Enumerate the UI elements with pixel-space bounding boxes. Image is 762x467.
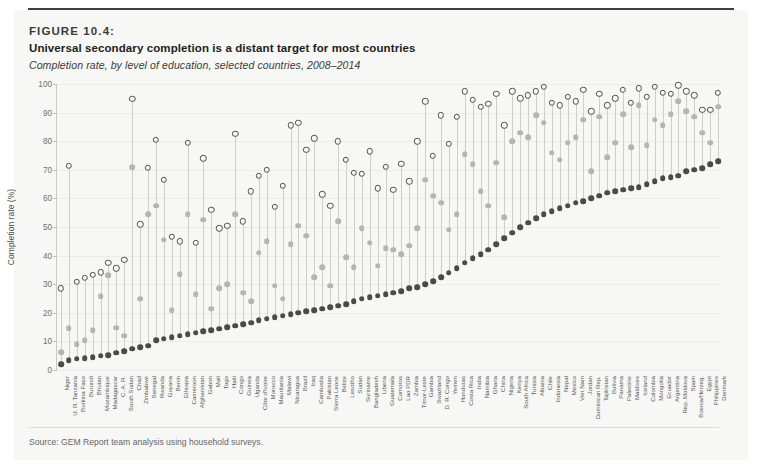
chart-plot-area: 0102030405060708090100 NigerU. R. Tanzan… bbox=[57, 84, 722, 370]
lower-secondary-completion-marker bbox=[549, 150, 555, 156]
x-tick-label: Egypt bbox=[705, 376, 712, 392]
x-tick-label: Senegal bbox=[150, 376, 157, 398]
x-tick-label: Honduras bbox=[459, 376, 466, 402]
x-tick-label: Timor-Leste bbox=[420, 376, 427, 408]
y-tick-label: 60 bbox=[43, 194, 52, 203]
upper-secondary-completion-marker bbox=[462, 260, 468, 266]
x-tick-label: Chile bbox=[546, 376, 553, 390]
connector-stem bbox=[552, 103, 553, 212]
connector-stem bbox=[235, 134, 236, 326]
x-tick-label: Maldives bbox=[633, 376, 640, 400]
connector-stem bbox=[306, 150, 307, 312]
y-tick-mark bbox=[53, 227, 57, 228]
upper-secondary-completion-marker bbox=[438, 274, 444, 280]
x-tick-label: Panama bbox=[617, 376, 624, 399]
connector-stem bbox=[465, 91, 466, 263]
upper-secondary-completion-marker bbox=[264, 316, 270, 322]
connector-stem bbox=[433, 156, 434, 282]
lower-secondary-completion-marker bbox=[612, 140, 618, 146]
lower-secondary-completion-marker bbox=[74, 341, 80, 347]
connector-stem bbox=[267, 170, 268, 319]
connector-stem bbox=[647, 97, 648, 184]
upper-secondary-completion-marker bbox=[596, 193, 602, 199]
lower-secondary-completion-marker bbox=[636, 103, 642, 109]
connector-stem bbox=[314, 138, 315, 310]
upper-secondary-completion-marker bbox=[644, 181, 650, 187]
connector-stem bbox=[330, 206, 331, 308]
lower-secondary-completion-marker bbox=[335, 218, 341, 224]
upper-secondary-completion-marker bbox=[573, 200, 579, 206]
lower-secondary-completion-marker bbox=[98, 293, 104, 299]
x-tick-label: Gambia bbox=[427, 376, 434, 397]
connector-stem bbox=[77, 282, 78, 359]
x-tick-label: Madagascar bbox=[111, 376, 118, 410]
lower-secondary-completion-marker bbox=[58, 349, 64, 355]
upper-secondary-completion-marker bbox=[224, 324, 230, 330]
connector-stem bbox=[409, 181, 410, 288]
upper-secondary-completion-marker bbox=[304, 309, 310, 315]
x-tick-label: Guatemala bbox=[388, 376, 395, 406]
upper-secondary-completion-marker bbox=[114, 350, 120, 356]
lower-secondary-completion-marker bbox=[541, 120, 547, 126]
y-tick-label: 0 bbox=[47, 366, 52, 375]
x-tick-label: Burkina Faso bbox=[79, 376, 86, 412]
x-tick-label: Malawi bbox=[285, 376, 292, 395]
upper-secondary-completion-marker bbox=[66, 357, 72, 363]
y-tick-mark bbox=[53, 198, 57, 199]
x-tick-label: Nicaragua bbox=[293, 376, 300, 404]
upper-secondary-completion-marker bbox=[399, 289, 405, 295]
x-tick-label: Haiti bbox=[230, 376, 237, 388]
connector-stem bbox=[623, 90, 624, 190]
connector-stem bbox=[322, 194, 323, 308]
lower-secondary-completion-marker bbox=[533, 113, 539, 119]
connector-stem bbox=[196, 243, 197, 333]
upper-secondary-completion-marker bbox=[209, 327, 215, 333]
source-note: Source: GEM Report team analysis using h… bbox=[29, 437, 263, 447]
upper-secondary-completion-marker bbox=[676, 173, 682, 179]
connector-stem bbox=[85, 278, 86, 358]
connector-stem bbox=[291, 125, 292, 314]
upper-secondary-completion-marker bbox=[501, 236, 507, 242]
x-tick-label: South Sudan bbox=[127, 376, 134, 411]
x-tick-label: Zambia bbox=[412, 376, 419, 396]
y-tick-label: 90 bbox=[43, 108, 52, 117]
upper-secondary-completion-marker bbox=[715, 158, 721, 164]
y-tick-label: 30 bbox=[43, 280, 52, 289]
x-tick-label: Liberia bbox=[380, 376, 387, 394]
lower-secondary-completion-marker bbox=[565, 140, 571, 146]
y-tick-label: 20 bbox=[43, 308, 52, 317]
y-tick-label: 40 bbox=[43, 251, 52, 260]
connector-stem bbox=[140, 224, 141, 347]
upper-secondary-completion-marker bbox=[359, 296, 365, 302]
lower-secondary-completion-marker bbox=[256, 250, 262, 256]
x-tick-label: Bolivia bbox=[610, 376, 617, 394]
upper-secondary-completion-marker bbox=[161, 336, 167, 342]
connector-stem bbox=[583, 90, 584, 202]
lower-secondary-completion-marker bbox=[652, 117, 658, 123]
lower-secondary-completion-marker bbox=[90, 327, 96, 333]
upper-secondary-completion-marker bbox=[327, 304, 333, 310]
upper-secondary-completion-marker bbox=[169, 334, 175, 340]
x-tick-label: Mauritania bbox=[277, 376, 284, 404]
lower-secondary-completion-marker bbox=[161, 237, 167, 243]
upper-secondary-completion-marker bbox=[707, 161, 713, 167]
x-tick-label: Afghanistan bbox=[198, 376, 205, 408]
y-tick-mark bbox=[53, 84, 57, 85]
upper-secondary-completion-marker bbox=[565, 203, 571, 209]
lower-secondary-completion-marker bbox=[668, 111, 674, 117]
upper-secondary-completion-marker bbox=[691, 167, 697, 173]
lower-secondary-completion-marker bbox=[707, 140, 713, 146]
upper-secondary-completion-marker bbox=[272, 314, 278, 320]
connector-stem bbox=[164, 180, 165, 339]
x-tick-label: Benin bbox=[174, 376, 181, 392]
x-tick-label: Philippines bbox=[712, 376, 719, 405]
upper-secondary-completion-marker bbox=[541, 211, 547, 217]
x-tick-label: Cambodia bbox=[317, 376, 324, 404]
upper-secondary-completion-marker bbox=[319, 306, 325, 312]
lower-secondary-completion-marker bbox=[438, 200, 444, 206]
upper-secondary-completion-marker bbox=[549, 208, 555, 214]
connector-stem bbox=[132, 99, 133, 349]
upper-secondary-completion-marker bbox=[280, 313, 286, 319]
y-tick-mark bbox=[53, 170, 57, 171]
upper-secondary-completion-marker bbox=[367, 294, 373, 300]
